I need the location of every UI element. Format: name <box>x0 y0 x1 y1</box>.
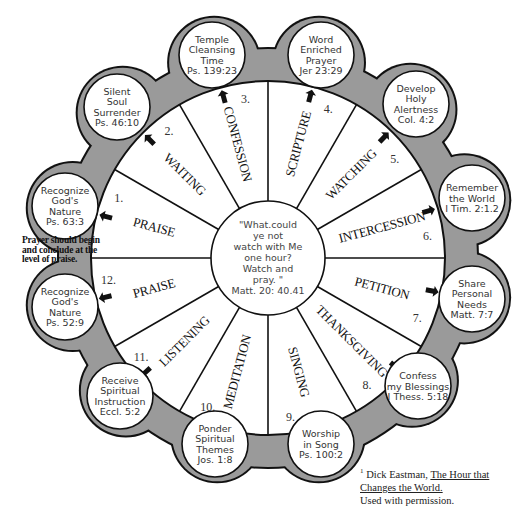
bubble-3: TempleCleansingTimePs. 139:23 <box>179 22 245 88</box>
bubble-text: God's <box>52 195 79 206</box>
center-reference: Matt. 20: 40.41 <box>231 285 304 296</box>
segment-number: 8. <box>363 378 372 392</box>
bubble-text: Temple <box>194 34 229 45</box>
bubble-text: Recognize <box>41 185 90 196</box>
bubble-text: God's <box>52 296 79 307</box>
segment-number: 3. <box>241 92 250 106</box>
segment-number: 7. <box>413 311 422 325</box>
segment-number: 11. <box>134 350 149 364</box>
bubble-text: Ponder <box>198 423 231 434</box>
segment-number: 1. <box>114 191 123 205</box>
bubble-5: DevelopHolyAlertnessCol. 4:2 <box>383 71 449 137</box>
center-quote-line: one hour? <box>244 252 292 263</box>
bubble-text: Matt. 7:7 <box>451 309 494 320</box>
bubble-4: WordEnrichedPrayerJer 23:29 <box>288 22 354 88</box>
footnote-marker: 1 <box>360 467 364 475</box>
bubble-1: RecognizeGod'sNaturePs. 63:3 <box>32 173 98 239</box>
center-quote-line: watch with Me <box>234 241 303 252</box>
bubble-text: Eccl. 5:2 <box>100 406 140 417</box>
footnote-permission: Used with permission. <box>360 495 454 506</box>
bubble-text: my Blessings <box>387 381 449 392</box>
bubble-text: Spiritual <box>195 433 234 444</box>
bubble-text: Recognize <box>41 286 90 297</box>
bubble-text: Time <box>199 55 223 66</box>
bubble-text: Ps. 46:10 <box>95 117 139 128</box>
side-note: Prayer should begin and conclude at the … <box>22 236 102 265</box>
bubble-text: Receive <box>101 375 138 386</box>
bubble-text: Alertness <box>394 104 438 115</box>
bubble-text: in Song <box>303 439 339 450</box>
bubble-text: Prayer <box>306 55 337 66</box>
bubble-text: Enriched <box>300 44 342 55</box>
segment-number: 5. <box>390 152 399 166</box>
bubble-text: Ps. 139:23 <box>187 65 237 76</box>
bubble-text: Silent <box>104 86 131 97</box>
bubble-text: Personal <box>452 288 492 299</box>
bubble-10: PonderSpiritualThemesJos. 1:8 <box>182 411 248 477</box>
bubble-text: Nature <box>49 307 81 318</box>
bubble-9: Worshipin SongPs. 100:2 <box>288 411 354 477</box>
segment-number: 9. <box>286 410 295 424</box>
segment-number: 6. <box>423 229 432 243</box>
bubble-6: Rememberthe WorldI Tim. 2:1.2 <box>439 165 505 231</box>
bubble-text: Worship <box>302 428 340 439</box>
bubble-text: Confess <box>399 370 437 381</box>
bubble-11: ReceiveSpiritualInstructionEccl. 5:2 <box>87 363 153 429</box>
center-quote-line: Watch and <box>243 263 293 274</box>
bubble-7: SharePersonalNeedsMatt. 7:7 <box>439 266 505 332</box>
bubble-2: SilentSoulSurrenderPs. 46:10 <box>84 74 150 140</box>
bubble-text: the World <box>449 193 495 204</box>
bubble-text: I Thess. 5:18 <box>388 391 449 402</box>
bubble-8: Confessmy BlessingsI Thess. 5:18 <box>385 353 451 419</box>
bubble-text: Ps. 100:2 <box>299 449 343 460</box>
center-quote-line: ye not <box>253 230 283 241</box>
bubble-text: Jer 23:29 <box>299 65 343 76</box>
bubble-text: Nature <box>49 206 81 217</box>
center-quote-line: pray. " <box>253 274 283 285</box>
bubble-text: Needs <box>457 299 487 310</box>
bubble-text: Jos. 1:8 <box>197 454 233 465</box>
center-quote-line: "What.could <box>239 219 297 230</box>
footnote-author: Dick Eastman, <box>366 469 428 480</box>
bubble-text: Themes <box>195 444 234 455</box>
footnote: 1 Dick Eastman, The Hour that Changes th… <box>360 465 520 507</box>
bubble-text: Word <box>309 34 333 45</box>
segment-number: 4. <box>324 102 333 116</box>
bubble-text: Share <box>458 278 486 289</box>
segment-number: 12. <box>101 273 116 287</box>
bubble-text: Cleansing <box>189 44 236 55</box>
bubble-12: RecognizeGod'sNaturePs. 52:9 <box>32 274 98 340</box>
bubble-text: I Tim. 2:1.2 <box>445 203 499 214</box>
bubble-text: Col. 4:2 <box>398 114 434 125</box>
segment-number: 2. <box>164 124 173 138</box>
bubble-text: Ps. 52:9 <box>46 317 84 328</box>
bubble-text: Remember <box>446 182 498 193</box>
bubble-text: Develop <box>396 83 435 94</box>
bubble-text: Spiritual <box>100 385 139 396</box>
bubble-text: Holy <box>405 93 427 104</box>
bubble-text: Instruction <box>95 396 146 407</box>
bubble-text: Surrender <box>93 107 140 118</box>
bubble-text: Ps. 63:3 <box>46 216 84 227</box>
bubble-text: Soul <box>107 96 128 107</box>
